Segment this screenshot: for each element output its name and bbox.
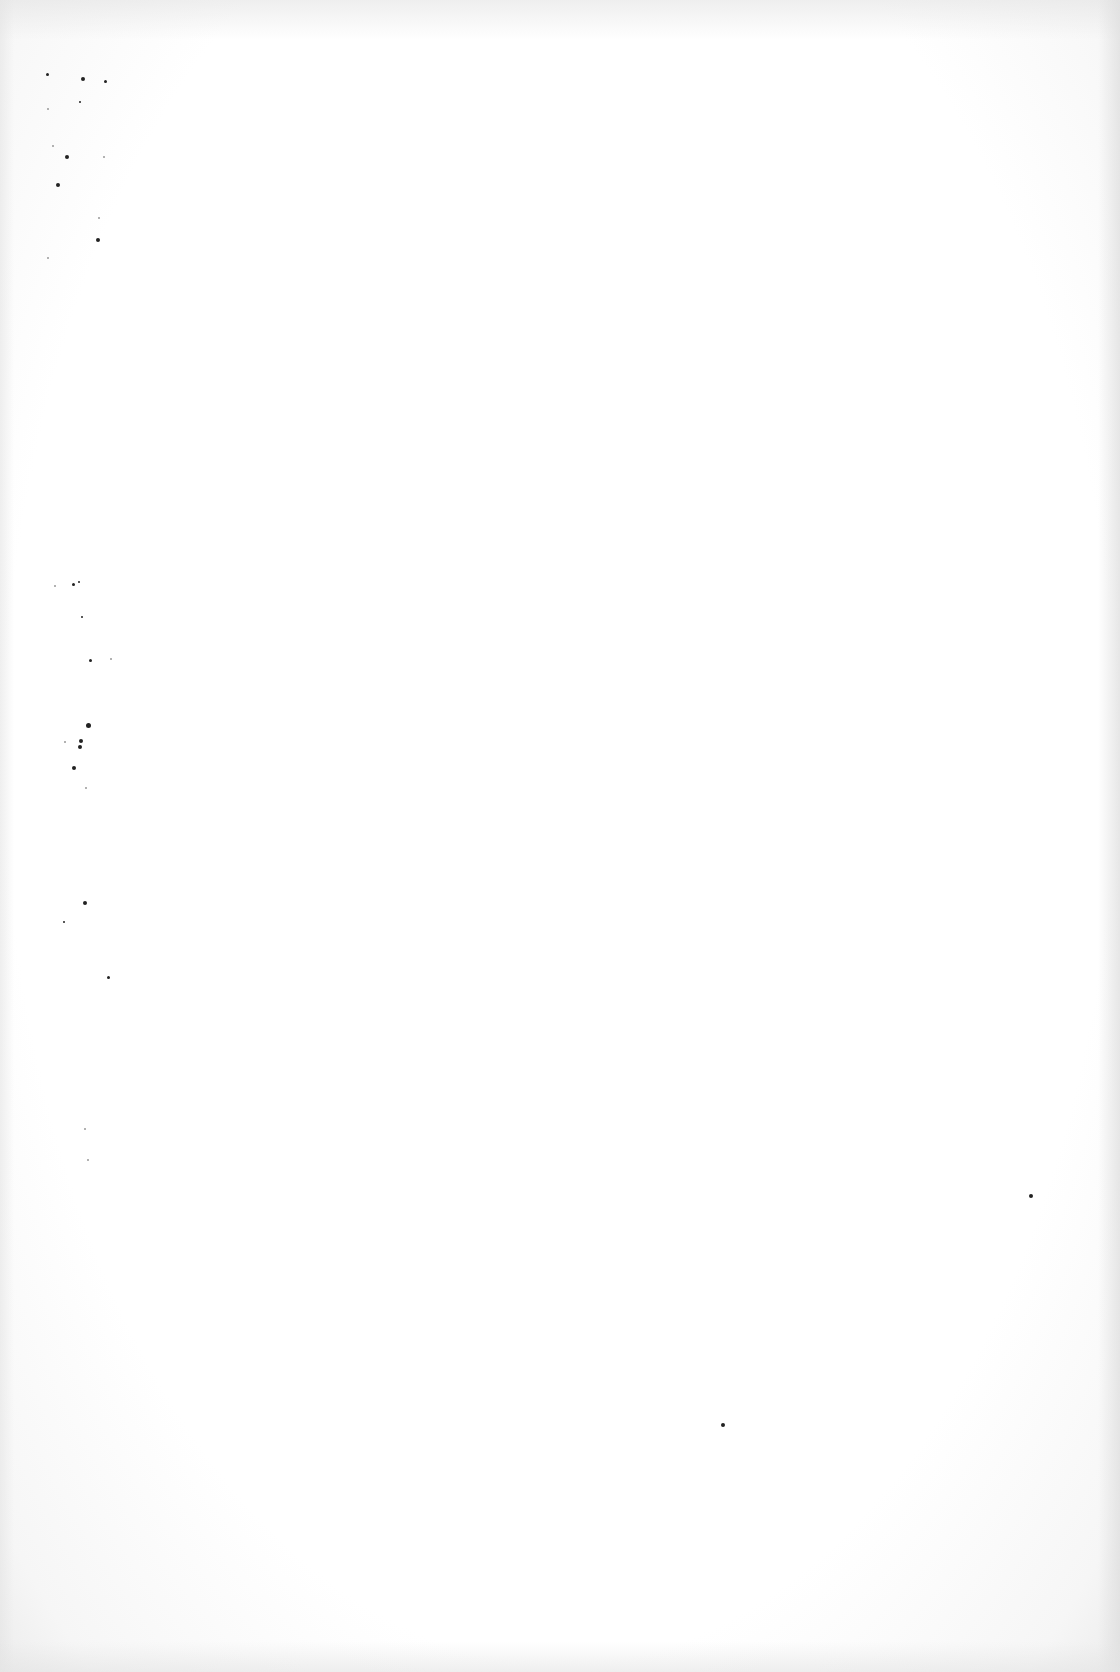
scan-speck bbox=[72, 583, 75, 586]
scan-speck bbox=[52, 145, 54, 147]
scan-speck bbox=[96, 238, 100, 242]
scan-speck bbox=[47, 108, 49, 110]
scan-speck bbox=[79, 101, 81, 103]
scan-speck bbox=[79, 739, 83, 743]
scan-speck bbox=[1029, 1194, 1033, 1198]
scan-speck bbox=[78, 745, 82, 749]
scan-speck bbox=[110, 658, 112, 660]
scan-speck bbox=[47, 257, 49, 259]
scan-speck bbox=[81, 616, 83, 618]
scan-speck bbox=[56, 183, 60, 187]
scan-speck bbox=[103, 156, 105, 158]
scan-speck bbox=[721, 1423, 725, 1427]
page-top-edge-shadow bbox=[0, 0, 1120, 40]
scanned-page bbox=[0, 0, 1120, 1672]
scan-speck bbox=[83, 901, 87, 905]
scan-speck bbox=[98, 217, 100, 219]
scan-speck bbox=[104, 80, 107, 83]
page-bottom-edge-shadow bbox=[0, 1642, 1120, 1672]
scan-speck bbox=[54, 585, 56, 587]
scan-speck bbox=[72, 766, 76, 770]
scan-speck bbox=[78, 581, 80, 583]
scan-speck bbox=[86, 723, 91, 728]
scan-speck bbox=[64, 741, 66, 743]
scan-speck bbox=[87, 1159, 89, 1161]
scan-speck bbox=[89, 659, 92, 662]
scan-speck bbox=[46, 73, 49, 76]
page-left-edge-shadow bbox=[0, 0, 14, 1672]
scan-speck bbox=[63, 921, 65, 923]
scan-speck bbox=[81, 77, 85, 81]
scan-speck bbox=[85, 787, 87, 789]
scan-speck bbox=[107, 976, 110, 979]
scan-speck bbox=[84, 1128, 86, 1130]
page-right-edge-shadow bbox=[1098, 0, 1120, 1672]
scan-speck bbox=[65, 155, 69, 159]
